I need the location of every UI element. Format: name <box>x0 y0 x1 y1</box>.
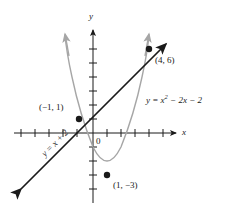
point-label-minus1-1: (−1, 1) <box>39 103 64 112</box>
parabola-equation-tail: − 2x − 2 <box>168 95 202 105</box>
point-marker-1-minus3 <box>104 172 110 178</box>
origin-label: 0 <box>96 137 101 146</box>
parabola-right-branch <box>107 35 149 161</box>
point-marker-minus1-1 <box>76 116 82 122</box>
y-axis-label: y <box>89 12 93 21</box>
point-label-1-minus3: (1, −3) <box>113 181 138 190</box>
point-label-4-6: (4, 6) <box>155 56 175 65</box>
parabola-equation-label: y = x2 − 2x − 2 <box>146 96 202 105</box>
point-marker-4-6 <box>146 46 152 52</box>
parabola-equation-lead: y = x <box>146 95 165 105</box>
x-axis-label: x <box>182 128 186 137</box>
graph-figure: y x 0 (−1, 1) (4, 6) (1, −3) y = x + 2 y… <box>0 0 231 217</box>
x-axis <box>14 129 176 137</box>
